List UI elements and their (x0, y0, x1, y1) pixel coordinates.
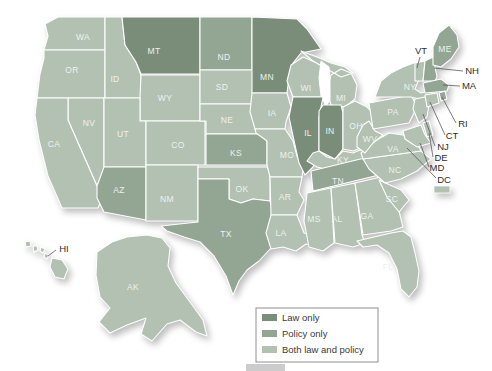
callout-label-md: MD (430, 162, 445, 173)
bottom-partial-bar (246, 364, 285, 371)
state-label-ky: KY (337, 155, 349, 165)
state-label-wa: WA (76, 32, 90, 42)
state-label-ny: NY (404, 82, 416, 92)
callout-label-ri: RI (458, 118, 468, 129)
legend-label-law-only: Law only (282, 312, 320, 323)
state-label-ca: CA (48, 139, 60, 149)
dc-indicator-swatch (434, 186, 450, 193)
state-label-mt: MT (148, 46, 161, 56)
callout-label-vt: VT (415, 45, 427, 56)
legend-swatch-law-only (262, 314, 277, 321)
state-nd (200, 17, 252, 70)
states-group (25, 17, 459, 341)
state-label-ga: GA (361, 211, 374, 221)
state-label-tn: TN (332, 176, 344, 186)
state-label-ks: KS (230, 148, 242, 158)
state-label-nm: NM (160, 194, 174, 204)
state-label-wy: WY (158, 93, 172, 103)
state-label-ut: UT (117, 129, 129, 139)
callout-label-nj: NJ (437, 141, 449, 152)
state-label-wv: WV (363, 134, 377, 144)
state-label-wi: WI (301, 83, 312, 93)
state-ak (96, 235, 207, 341)
state-label-pa: PA (387, 107, 398, 117)
callout-line-ri (442, 97, 456, 123)
callout-line-de (429, 133, 433, 157)
state-label-ok: OK (236, 184, 249, 194)
state-label-il: IL (304, 128, 312, 138)
state-label-nc: NC (389, 165, 402, 175)
state-label-va: VA (387, 144, 398, 154)
state-label-me: ME (438, 44, 451, 54)
callout-line-hi (48, 250, 56, 256)
callout-label-ct: CT (446, 130, 459, 141)
state-ct (425, 93, 439, 107)
callout-label-nh: NH (465, 65, 479, 76)
callout-label-ma: MA (462, 80, 477, 91)
us-choropleth-map: WA OR CA NV ID MT WY UT CO AZ NM ND SD N… (0, 0, 492, 371)
legend-swatch-policy-only (262, 330, 277, 337)
state-label-mo: MO (280, 150, 294, 160)
callout-label-hi: HI (59, 243, 69, 254)
state-label-id: ID (110, 74, 119, 84)
state-label-la: LA (276, 228, 287, 238)
state-label-in: IN (325, 126, 334, 136)
state-sd (200, 70, 257, 104)
state-label-al: AL (332, 214, 343, 224)
state-label-ia: IA (268, 108, 277, 118)
legend-label-both: Both law and policy (282, 344, 364, 355)
legend: Law only Policy only Both law and policy (256, 308, 378, 362)
state-label-mi: MI (336, 93, 346, 103)
state-label-nv: NV (83, 118, 95, 128)
state-nm (146, 165, 198, 221)
legend-swatch-both (262, 346, 277, 353)
state-label-ne: NE (221, 115, 233, 125)
state-label-nd: ND (218, 52, 231, 62)
state-label-or: OR (65, 65, 78, 75)
state-wa (44, 17, 105, 50)
state-label-oh: OH (349, 121, 362, 131)
state-label-co: CO (171, 140, 184, 150)
state-label-fl: FL (383, 262, 394, 272)
state-label-ar: AR (279, 192, 291, 202)
state-label-ms: MS (307, 214, 320, 224)
state-label-tx: TX (220, 229, 231, 239)
callout-line-nh (434, 68, 463, 71)
state-label-az: AZ (113, 185, 124, 195)
state-label-mn: MN (260, 72, 274, 82)
state-label-sd: SD (216, 82, 228, 92)
callout-label-dc: DC (437, 174, 451, 185)
callout-line-ct (430, 102, 445, 135)
figure-canvas: WA OR CA NV ID MT WY UT CO AZ NM ND SD N… (0, 0, 492, 371)
legend-label-policy-only: Policy only (282, 328, 328, 339)
state-label-ak: AK (127, 282, 139, 292)
state-label-sc: SC (386, 194, 398, 204)
